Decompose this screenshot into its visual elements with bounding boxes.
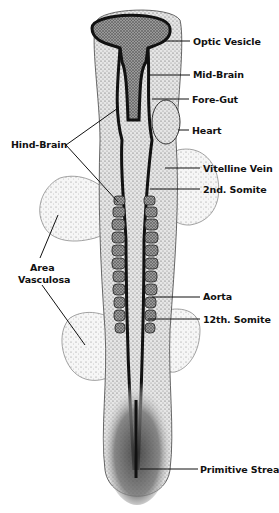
label-area: Area	[30, 262, 55, 273]
label-heart: Heart	[192, 125, 222, 136]
label-mid-brain: Mid-Brain	[193, 69, 244, 80]
label-optic-vesicle: Optic Vesicle	[193, 36, 261, 47]
label-fore-gut: Fore-Gut	[192, 94, 238, 105]
heart	[152, 100, 180, 144]
label-primitive-streak: Primitive Streak	[200, 464, 279, 475]
label-hind-brain: Hind-Brain	[11, 139, 67, 150]
label-vasculosa: Vasculosa	[18, 274, 70, 285]
label-second-somite: 2nd. Somite	[203, 184, 267, 195]
label-twelfth-somite: 12th. Somite	[203, 314, 271, 325]
label-vitelline-vein: Vitelline Vein	[203, 163, 273, 174]
label-aorta: Aorta	[203, 291, 232, 302]
